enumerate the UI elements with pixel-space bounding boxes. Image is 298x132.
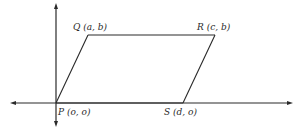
diagram-canvas: Q (a, b) R (c, b) P (o, o) S (d, o) xyxy=(0,0,298,132)
vertex-label-P: P (o, o) xyxy=(57,107,91,117)
x-axis-right-arrow-icon xyxy=(287,101,293,105)
vertex-label-R: R (c, b) xyxy=(196,22,231,32)
edge-PQ xyxy=(56,35,88,103)
x-axis-left-arrow-icon xyxy=(10,101,16,105)
y-axis-down-arrow-icon xyxy=(54,121,58,127)
vertex-label-Q: Q (a, b) xyxy=(73,22,108,32)
y-axis-up-arrow-icon xyxy=(54,3,58,9)
edge-RS xyxy=(183,35,215,103)
vertex-label-S: S (d, o) xyxy=(164,107,197,117)
